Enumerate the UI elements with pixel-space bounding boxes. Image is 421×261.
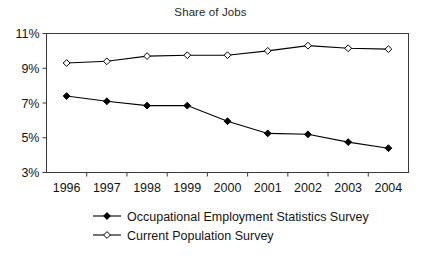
legend-label: Current Population Survey xyxy=(127,229,274,243)
x-axis-tick-label: 1999 xyxy=(173,181,201,195)
data-series xyxy=(63,93,392,152)
data-point-marker xyxy=(385,145,392,152)
data-point-marker xyxy=(305,131,312,138)
data-point-marker xyxy=(63,60,70,67)
data-point-marker xyxy=(144,102,151,109)
x-axis: 199619971998199920002001200220032004 xyxy=(53,173,403,195)
chart-container: Share of Jobs 3%5%7%9%11% 19961997199819… xyxy=(0,0,421,261)
data-point-marker xyxy=(224,52,231,59)
chart-legend: Occupational Employment Statistics Surve… xyxy=(93,210,370,243)
x-axis-tick-label: 2001 xyxy=(254,181,282,195)
data-point-marker xyxy=(385,46,392,53)
data-point-marker xyxy=(224,118,231,125)
legend-marker-icon xyxy=(104,232,111,239)
y-axis: 3%5%7%9%11% xyxy=(15,27,46,180)
x-axis-tick-label: 1996 xyxy=(53,181,81,195)
data-point-marker xyxy=(345,139,352,146)
x-axis-tick-label: 1998 xyxy=(133,181,161,195)
y-axis-tick-label: 9% xyxy=(21,62,39,76)
x-axis-tick-label: 2003 xyxy=(334,181,362,195)
data-point-marker xyxy=(345,45,352,52)
legend-label: Occupational Employment Statistics Surve… xyxy=(127,210,370,224)
data-point-marker xyxy=(184,52,191,59)
x-axis-tick-label: 2000 xyxy=(214,181,242,195)
data-point-marker xyxy=(103,98,110,105)
y-axis-tick-label: 11% xyxy=(15,27,39,41)
y-axis-tick-label: 3% xyxy=(21,166,39,180)
data-point-marker xyxy=(144,53,151,60)
x-axis-tick-label: 2004 xyxy=(374,181,402,195)
y-axis-tick-label: 5% xyxy=(21,131,39,145)
data-point-marker xyxy=(264,130,271,137)
data-point-marker xyxy=(63,93,70,100)
x-axis-tick-label: 2002 xyxy=(294,181,322,195)
data-point-marker xyxy=(305,42,312,49)
y-axis-tick-label: 7% xyxy=(21,97,39,111)
data-point-marker xyxy=(264,47,271,54)
data-series xyxy=(63,42,392,66)
chart-plot-svg: 3%5%7%9%11% 1996199719981999200020012002… xyxy=(0,0,421,261)
x-axis-tick-label: 1997 xyxy=(93,181,121,195)
legend-marker-icon xyxy=(104,213,111,220)
data-series-group xyxy=(63,42,392,151)
data-point-marker xyxy=(184,102,191,109)
data-point-marker xyxy=(103,58,110,65)
